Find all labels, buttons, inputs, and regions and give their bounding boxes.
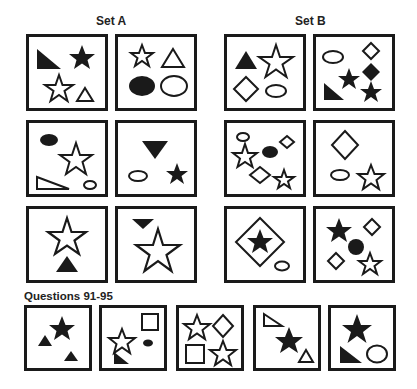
outline-ellipse-icon (331, 170, 349, 180)
question-93-panel[interactable] (176, 305, 244, 371)
outline-ellipse-icon (266, 85, 286, 97)
outline-ellipse-icon (367, 346, 387, 363)
filled-inverted-triangle-icon (132, 219, 154, 229)
set-b-panel-5 (224, 206, 306, 283)
outline-right-triangle-icon (37, 177, 69, 189)
set-a-title: Set A (96, 14, 126, 28)
outline-star-icon (109, 329, 135, 353)
outline-star-icon (136, 229, 180, 271)
set-b-panel-1 (224, 34, 306, 111)
outline-triangle-icon (162, 49, 184, 67)
filled-circle-icon (348, 239, 364, 255)
outline-diamond-icon (363, 43, 379, 59)
outline-small-ellipse-icon (84, 181, 96, 189)
set-a-panel-6 (115, 206, 197, 283)
filled-star-icon (342, 314, 372, 343)
outline-star-icon (48, 218, 86, 254)
questions-title: Questions 91-95 (24, 290, 113, 302)
set-b-panel-6 (313, 206, 395, 283)
outline-triangle-icon (77, 88, 93, 101)
outline-right-triangle-icon (264, 314, 282, 326)
outline-ellipse-icon (161, 76, 187, 96)
outline-diamond-icon (364, 219, 380, 235)
question-94-panel[interactable] (253, 305, 321, 371)
set-a-panel-1 (26, 34, 108, 111)
set-a-panel-3 (26, 120, 108, 197)
outline-diamond-icon (328, 253, 344, 269)
set-b-panel-2 (313, 34, 395, 111)
filled-star-icon (247, 229, 273, 253)
filled-ellipse-icon (129, 76, 155, 96)
set-b-panel-4 (313, 120, 395, 197)
filled-right-triangle-icon (37, 49, 61, 69)
outline-star-icon (359, 253, 381, 274)
filled-star-icon (166, 163, 188, 184)
filled-right-triangle-icon (340, 346, 362, 363)
set-b-title: Set B (295, 14, 326, 28)
filled-ellipse-icon (262, 146, 278, 158)
filled-triangle-icon (56, 256, 78, 272)
set-a-panel-5 (26, 206, 108, 283)
question-91-panel[interactable] (24, 305, 92, 371)
outline-square-icon (142, 314, 158, 330)
outline-diamond-icon (213, 315, 233, 337)
filled-diamond-icon (362, 63, 380, 81)
filled-triangle-icon (38, 335, 52, 346)
filled-star-icon (49, 316, 75, 340)
question-92-panel[interactable] (99, 305, 167, 371)
filled-right-triangle-icon (114, 352, 129, 364)
outline-star-icon (60, 143, 92, 174)
outline-square-icon (186, 345, 204, 363)
outline-ellipse-icon (129, 171, 147, 181)
set-a-panel-2 (115, 34, 197, 111)
outline-star-icon (274, 170, 294, 188)
outline-triangle-icon (299, 350, 313, 362)
outline-diamond-icon (250, 167, 270, 183)
outline-diamond-icon (234, 77, 258, 101)
filled-star-icon (326, 218, 352, 242)
filled-ellipse-icon (40, 134, 58, 146)
outline-small-ellipse-icon (275, 262, 289, 271)
outline-ellipse-icon (237, 133, 249, 141)
outline-star-icon (131, 45, 153, 66)
outline-star-icon (358, 165, 384, 189)
outline-star-icon (45, 75, 73, 101)
filled-right-triangle-icon (324, 83, 344, 100)
set-b-panel-3 (224, 120, 306, 197)
filled-star-icon (69, 45, 95, 69)
filled-star-icon (360, 81, 382, 102)
filled-triangle-icon (235, 51, 257, 69)
filled-ellipse-icon (143, 340, 153, 347)
outline-star-icon (259, 45, 293, 77)
filled-star-icon (275, 327, 303, 353)
outline-star-icon (184, 315, 210, 339)
question-95-panel[interactable] (328, 305, 396, 371)
filled-inverted-triangle-icon (142, 141, 168, 159)
outline-star-icon (233, 144, 257, 167)
outline-diamond-icon (280, 136, 294, 148)
outline-star-icon (210, 341, 236, 365)
filled-star-icon (338, 68, 360, 89)
outline-diamond-icon (332, 131, 358, 159)
filled-triangle-icon (64, 351, 78, 361)
set-a-panel-4 (115, 120, 197, 197)
outline-ellipse-icon (323, 51, 343, 63)
